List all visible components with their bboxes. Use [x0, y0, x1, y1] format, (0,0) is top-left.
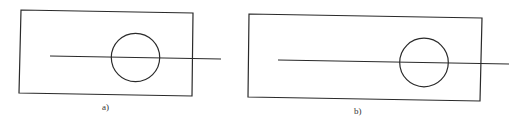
- figure-diagram: a) b): [0, 0, 525, 125]
- panel-a-rectangle: [19, 10, 193, 96]
- panel-a-label: a): [102, 102, 109, 112]
- panel-b-line: [278, 60, 509, 64]
- panel-a-line: [50, 56, 221, 59]
- panel-b-label: b): [354, 106, 362, 116]
- panel-b: b): [248, 14, 509, 116]
- panel-a: a): [19, 10, 221, 112]
- panel-b-rectangle: [248, 14, 482, 101]
